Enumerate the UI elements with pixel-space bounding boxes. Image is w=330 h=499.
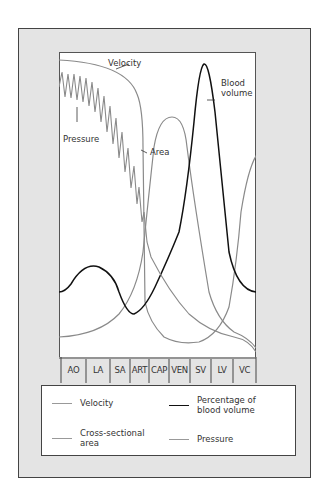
legend-item-velocity: Velocity (52, 398, 113, 408)
legend-label-velocity: Velocity (80, 398, 113, 408)
legend-swatch-area (52, 438, 72, 439)
category-lv: LV (211, 359, 233, 381)
annotation-velocity: Velocity (108, 58, 141, 68)
chart-curves (59, 52, 256, 359)
legend-label-blood-volume: Percentage of blood volume (197, 395, 256, 415)
category-cap: CAP (149, 359, 169, 381)
legend-item-blood-volume: Percentage of blood volume (169, 395, 256, 415)
legend-item-pressure: Pressure (169, 434, 233, 444)
legend-label-blood-volume-line1: Percentage of (197, 395, 256, 405)
category-ven: VEN (169, 359, 190, 381)
pressure-curve (59, 72, 256, 352)
annotation-blood-volume: Blood volume (221, 78, 253, 98)
legend: Velocity Percentage of blood volume Cros… (41, 385, 296, 456)
legend-label-pressure: Pressure (197, 434, 233, 444)
legend-label-area-line2: area (80, 438, 145, 448)
category-sv: SV (190, 359, 211, 381)
area-leader (141, 150, 147, 153)
legend-swatch-pressure (169, 439, 189, 440)
category-sa: SA (110, 359, 130, 381)
legend-item-area: Cross-sectional area (52, 428, 145, 448)
legend-label-area-line1: Cross-sectional (80, 428, 145, 438)
category-la: LA (86, 359, 110, 381)
annotation-pressure: Pressure (63, 134, 99, 144)
category-bar: AO LA SA ART CAP VEN SV LV VC (59, 359, 256, 381)
legend-swatch-blood-volume (169, 405, 189, 406)
category-art: ART (130, 359, 149, 381)
legend-label-area: Cross-sectional area (80, 428, 145, 448)
legend-swatch-velocity (52, 403, 72, 404)
legend-label-blood-volume-line2: blood volume (197, 405, 256, 415)
annotation-blood-volume-line1: Blood (221, 78, 253, 88)
annotation-blood-volume-line2: volume (221, 88, 253, 98)
annotation-area: Area (150, 147, 170, 157)
category-vc: VC (233, 359, 256, 381)
category-ao: AO (61, 359, 86, 381)
